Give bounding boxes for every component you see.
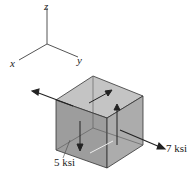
coordinate-axes: [19, 8, 78, 60]
z-axis-label: z: [44, 1, 48, 12]
shear-stress-label: 5 ksi: [54, 157, 75, 168]
y-axis-label: y: [77, 55, 82, 66]
diagram-svg: [0, 0, 193, 172]
normal-stress-label: 7 ksi: [166, 143, 187, 154]
x-axis-label: x: [10, 58, 15, 69]
